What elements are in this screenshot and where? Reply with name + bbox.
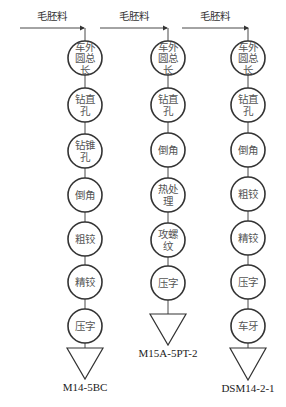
product-model-label: M15A-5PT-2	[139, 347, 198, 359]
step-label: 精铰	[238, 232, 259, 244]
step-label: 压字	[238, 276, 258, 288]
step-label: 圆总	[238, 52, 259, 64]
process-step-node: 车牙	[231, 309, 265, 343]
raw-material-label: 毛胚料	[200, 10, 231, 22]
process-step-node: 压字	[151, 266, 185, 300]
step-label: 车外	[238, 41, 259, 53]
step-label: 孔	[80, 151, 91, 163]
step-label: 纹	[163, 240, 174, 252]
step-label: 理	[163, 195, 174, 207]
step-label: 圆总	[158, 52, 179, 64]
process-column-1: 毛胚料车外圆总长钻直孔钻锥孔倒角粗铰精铰压字M14-5BC	[20, 10, 107, 393]
process-step-node: 粗铰	[68, 222, 102, 256]
step-label: 钻直	[238, 93, 259, 105]
step-label: 压字	[75, 320, 95, 332]
process-step-node: 热处理	[151, 178, 185, 212]
process-step-node: 精铰	[68, 265, 102, 299]
step-label: 车外	[158, 41, 179, 53]
raw-material-label: 毛胚料	[119, 10, 150, 22]
process-column-3: 毛胚料车外圆总长钻直孔倒角粗铰精铰压字车牙DSM14-2-1	[182, 10, 275, 394]
step-label: 长	[80, 64, 91, 76]
process-step-node: 攻螺纹	[151, 223, 185, 257]
step-label: 热处	[158, 183, 179, 195]
step-label: 攻螺	[158, 228, 179, 240]
product-triangle-icon	[230, 348, 266, 380]
raw-material-label: 毛胚料	[37, 10, 68, 22]
process-step-node: 倒角	[68, 178, 102, 212]
step-label: 粗铰	[238, 188, 259, 200]
process-column-2: 毛胚料车外圆总长钻直孔倒角热处理攻螺纹压字M15A-5PT-2	[100, 10, 197, 359]
step-label: 长	[163, 64, 174, 76]
process-step-node: 钻直孔	[231, 88, 265, 122]
product-model-label: DSM14-2-1	[221, 382, 274, 394]
step-label: 钻锥	[75, 139, 95, 151]
process-step-node: 倒角	[231, 133, 265, 167]
step-label: 车外	[75, 41, 96, 53]
process-step-node: 车外圆总长	[151, 41, 185, 76]
step-label: 压字	[158, 277, 178, 289]
process-step-node: 压字	[231, 265, 265, 299]
step-label: 钻直	[158, 93, 179, 105]
process-step-node: 钻直孔	[68, 88, 102, 122]
step-label: 圆总	[75, 52, 96, 64]
process-step-node: 精铰	[231, 221, 265, 255]
step-label: 倒角	[238, 144, 258, 156]
step-label: 长	[243, 64, 254, 76]
process-step-node: 钻锥孔	[68, 134, 102, 168]
process-step-node: 钻直孔	[151, 88, 185, 122]
process-flow-diagram: 毛胚料车外圆总长钻直孔钻锥孔倒角粗铰精铰压字M14-5BC毛胚料车外圆总长钻直孔…	[0, 0, 286, 407]
step-label: 精铰	[75, 276, 96, 288]
step-label: 孔	[243, 105, 254, 117]
process-step-node: 粗铰	[231, 177, 265, 211]
step-label: 倒角	[75, 189, 95, 201]
step-label: 车牙	[238, 320, 258, 332]
step-label: 孔	[80, 105, 91, 117]
step-label: 孔	[163, 105, 174, 117]
product-triangle-icon	[150, 314, 186, 345]
process-step-node: 车外圆总长	[231, 41, 265, 76]
process-step-node: 车外圆总长	[68, 41, 102, 76]
product-model-label: M14-5BC	[63, 381, 108, 393]
product-triangle-icon	[67, 348, 103, 379]
step-label: 倒角	[158, 144, 178, 156]
step-label: 钻直	[75, 93, 96, 105]
process-step-node: 倒角	[151, 133, 185, 167]
step-label: 粗铰	[75, 233, 96, 245]
process-step-node: 压字	[68, 309, 102, 343]
